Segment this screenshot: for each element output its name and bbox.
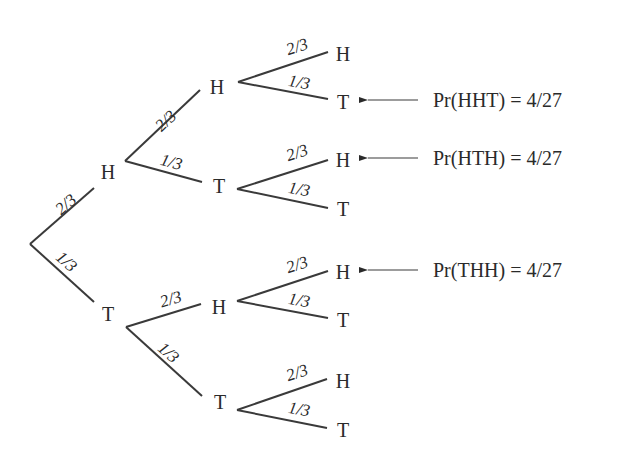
tree-node-tht: T <box>337 310 349 330</box>
tree-node-h: H <box>101 162 115 182</box>
tree-branch <box>237 160 328 189</box>
probability-tree-diagram: HTHTHTHTHTHTHT 2/31/32/31/32/31/32/31/32… <box>0 0 622 468</box>
tree-branch <box>238 82 328 99</box>
outcome-probability-text: Pr(HTH) = 4/27 <box>433 148 562 168</box>
branch-probability-label: 1/3 <box>287 399 311 420</box>
tree-node-htt: T <box>337 199 349 219</box>
tree-node-th: H <box>212 297 226 317</box>
outcome-probability-text: Pr(HHT) = 4/27 <box>433 90 562 110</box>
branch-probability-label: 1/3 <box>287 290 311 311</box>
branch-probability-label: 1/3 <box>159 151 184 173</box>
tree-branch <box>237 410 327 428</box>
tree-node-t: T <box>102 304 114 324</box>
tree-node-tt: T <box>214 392 226 412</box>
tree-branch <box>237 379 327 410</box>
tree-node-thh: H <box>336 262 350 282</box>
tree-branch <box>238 52 328 82</box>
tree-node-ht: T <box>213 176 225 196</box>
tree-node-tth: H <box>336 371 350 391</box>
tree-node-hh: H <box>210 77 224 97</box>
tree-node-hth: H <box>336 150 350 170</box>
branch-probability-label: 1/3 <box>287 72 311 93</box>
outcome-probability-text: Pr(THH) = 4/27 <box>433 260 562 280</box>
branch-probability-label: 1/3 <box>287 179 311 200</box>
tree-branch <box>237 271 328 301</box>
tree-branch <box>237 189 328 208</box>
tree-node-hhh: H <box>336 44 350 64</box>
tree-edges <box>0 0 622 468</box>
tree-branch <box>237 301 328 318</box>
tree-node-hht: T <box>337 92 349 112</box>
tree-node-ttt: T <box>337 420 349 440</box>
